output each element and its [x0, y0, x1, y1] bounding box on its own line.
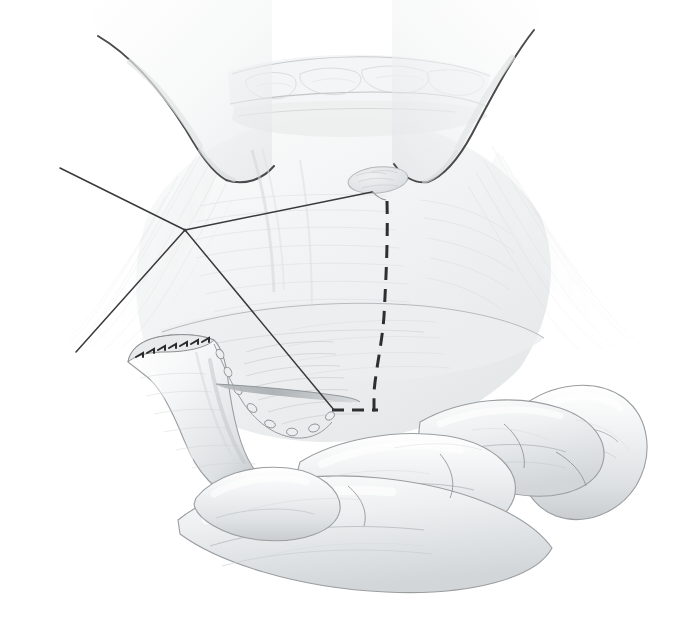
leader-convergence-node — [183, 228, 186, 231]
surgical-illustration — [0, 0, 676, 624]
illustration-canvas: Intraoperative view of pelvic dissection… — [0, 0, 676, 624]
